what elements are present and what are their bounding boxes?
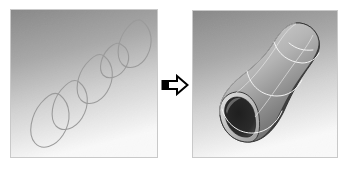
cross-section-curves-panel [10, 9, 158, 158]
transform-arrow [161, 74, 189, 96]
lofted-surface-canvas [192, 10, 338, 158]
transform-arrow-icon [161, 74, 189, 96]
arrow-tail-block [163, 81, 170, 89]
cross-section-curves-canvas [10, 9, 158, 158]
figure-root: Skinning of cross-section curves into a … [0, 0, 354, 169]
panel-background-grain [10, 9, 158, 158]
lofted-surface-panel [192, 10, 338, 158]
